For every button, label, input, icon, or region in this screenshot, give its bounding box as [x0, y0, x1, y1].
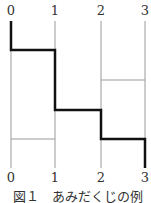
bottom-label-0: 0 — [7, 170, 15, 185]
bottom-label-2: 2 — [97, 170, 105, 185]
top-label-3: 3 — [141, 3, 149, 18]
bottom-label-1: 1 — [51, 170, 59, 185]
top-label-1: 1 — [51, 3, 59, 18]
top-label-2: 2 — [97, 3, 105, 18]
top-label-0: 0 — [7, 3, 15, 18]
amidakuji-diagram: 0 1 2 3 0 1 2 3 図１ あみだくじの例 — [0, 0, 151, 203]
bottom-label-3: 3 — [141, 170, 149, 185]
traced-path — [11, 21, 145, 168]
figure-caption: 図１ あみだくじの例 — [13, 189, 143, 203]
